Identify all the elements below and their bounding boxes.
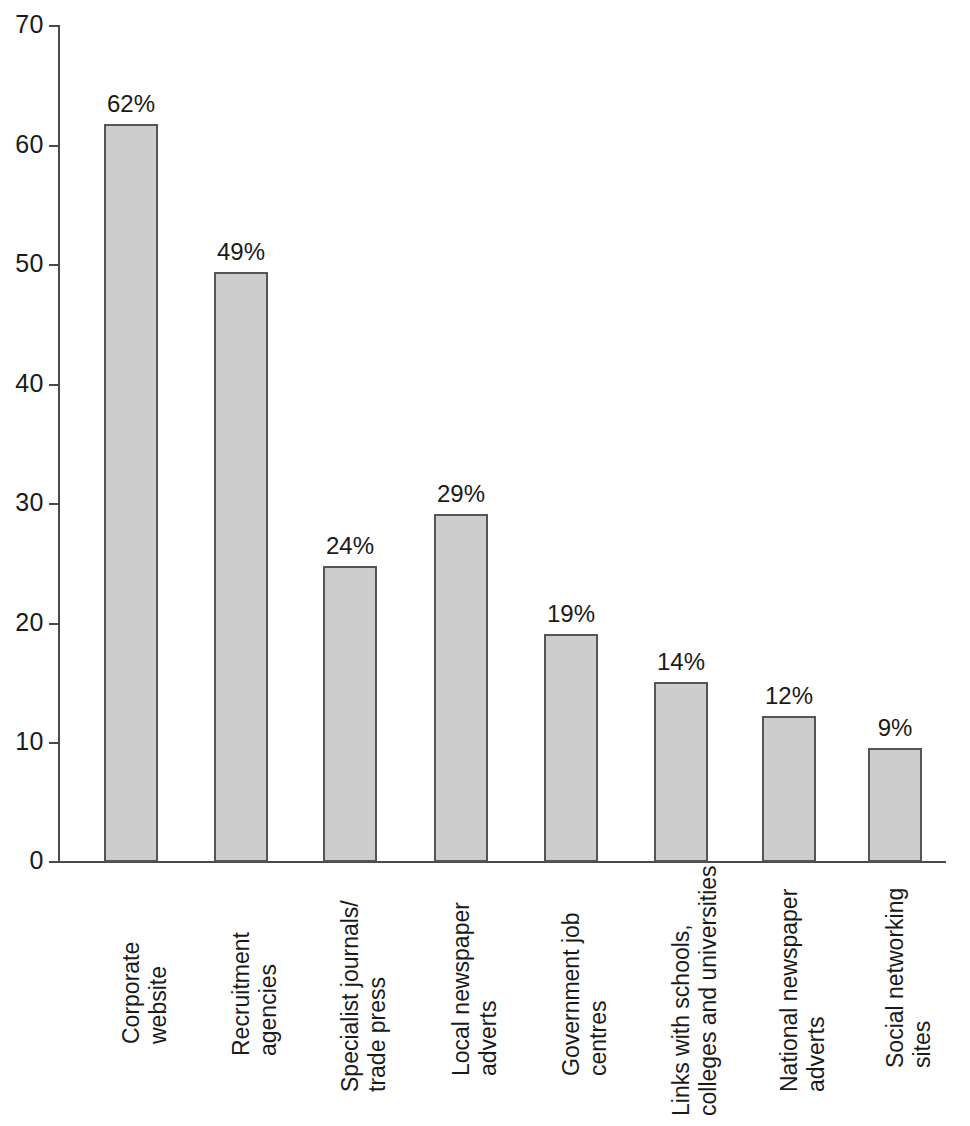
x-label-national-newspaper-adverts: National newspaper adverts [776, 889, 830, 1092]
y-tick-label-30: 30 [0, 490, 44, 515]
x-label-line1: Local newspaper [448, 902, 475, 1076]
y-tick-label-20: 20 [0, 610, 44, 635]
y-tick-label-60: 60 [0, 132, 44, 157]
x-label-line2: website [145, 942, 172, 1044]
x-label-links-with-schools: Links with schools, colleges and univers… [668, 865, 722, 1116]
bar-national-newspaper-adverts[interactable] [762, 716, 816, 862]
bar-government-job-centres[interactable] [544, 634, 598, 862]
bar-social-networking-sites[interactable] [868, 748, 922, 862]
y-tick-label-10: 10 [0, 729, 44, 754]
bar-specialist-journals[interactable] [323, 566, 377, 862]
y-tick-mark-40 [49, 384, 59, 386]
x-label-line1: Links with schools, [668, 865, 695, 1116]
x-label-specialist-journals: Specialist journals/ trade press [337, 900, 391, 1092]
x-label-line2: sites [909, 888, 936, 1068]
y-tick-mark-60 [49, 145, 59, 147]
bar-value-government-job-centres: 19% [536, 602, 606, 626]
x-label-line1: Specialist journals/ [337, 900, 364, 1092]
x-label-social-networking-sites: Social networking sites [882, 888, 936, 1068]
x-label-line2: trade press [364, 900, 391, 1092]
y-tick-mark-20 [49, 623, 59, 625]
x-label-local-newspaper-adverts: Local newspaper adverts [448, 902, 502, 1076]
x-label-line1: Corporate [118, 942, 145, 1044]
bar-links-with-schools[interactable] [654, 682, 708, 862]
y-tick-mark-10 [49, 742, 59, 744]
x-label-recruitment-agencies: Recruitment agencies [228, 932, 282, 1056]
bar-value-national-newspaper-adverts: 12% [754, 684, 824, 708]
y-tick-mark-50 [49, 264, 59, 266]
y-axis-line [58, 25, 60, 863]
x-label-line1: Government job [558, 912, 585, 1076]
y-tick-label-70: 70 [0, 12, 44, 37]
bar-value-corporate-website: 62% [96, 92, 166, 116]
bar-local-newspaper-adverts[interactable] [434, 514, 488, 862]
x-label-corporate-website: Corporate website [118, 942, 172, 1044]
x-label-line2: adverts [803, 889, 830, 1092]
y-tick-mark-70 [49, 25, 59, 27]
bar-corporate-website[interactable] [104, 124, 158, 862]
x-label-line1: Social networking [882, 888, 909, 1068]
x-label-line2: agencies [255, 932, 282, 1056]
bar-value-specialist-journals: 24% [315, 534, 385, 558]
bar-value-recruitment-agencies: 49% [206, 240, 276, 264]
x-label-line1: National newspaper [776, 889, 803, 1092]
y-tick-label-40: 40 [0, 371, 44, 396]
x-label-line2: adverts [475, 902, 502, 1076]
x-label-line1: Recruitment [228, 932, 255, 1056]
y-tick-label-50: 50 [0, 251, 44, 276]
bar-value-social-networking-sites: 9% [860, 716, 930, 740]
y-tick-mark-0 [49, 861, 59, 863]
x-label-line2: colleges and universities [695, 865, 722, 1116]
x-label-line2: centres [585, 912, 612, 1076]
x-label-government-job-centres: Government job centres [558, 912, 612, 1076]
bar-value-local-newspaper-adverts: 29% [426, 482, 496, 506]
bar-value-links-with-schools: 14% [646, 650, 716, 674]
y-tick-label-0: 0 [0, 848, 44, 873]
y-tick-mark-30 [49, 503, 59, 505]
bar-chart: 70 60 50 40 30 20 10 0 62% Corporate web… [0, 0, 970, 1126]
bar-recruitment-agencies[interactable] [214, 272, 268, 862]
